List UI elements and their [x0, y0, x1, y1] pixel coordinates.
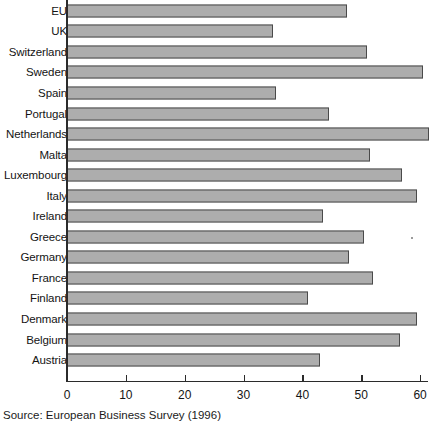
category-label: Spain	[38, 87, 67, 99]
category-label: Italy	[46, 190, 67, 202]
bar-track	[67, 292, 308, 305]
bar	[67, 45, 367, 58]
bar-track	[67, 169, 402, 182]
bar	[67, 210, 323, 223]
x-axis-tick-label: 40	[296, 388, 309, 402]
x-axis-tick	[361, 375, 362, 382]
bar	[67, 4, 347, 17]
category-label: Finland	[30, 292, 67, 304]
bar-track	[67, 251, 349, 264]
x-axis-tick-label: 50	[355, 388, 368, 402]
bar-track	[67, 66, 423, 79]
category-label: EU	[51, 5, 67, 17]
y-axis-line	[66, 0, 68, 382]
bar-track	[67, 313, 417, 326]
source-caption: Source: European Business Survey (1996)	[3, 409, 221, 421]
x-axis-tick-label: 60	[413, 388, 426, 402]
category-label: Portugal	[25, 108, 67, 120]
bar	[67, 313, 417, 326]
category-label: Austria	[32, 354, 67, 366]
bar	[67, 230, 364, 243]
bar	[67, 354, 320, 367]
bar	[67, 292, 308, 305]
category-label: Ireland	[33, 210, 67, 222]
bar-track	[67, 107, 329, 120]
category-label: Netherlands	[6, 128, 67, 140]
bar-track	[67, 189, 417, 202]
category-label: Denmark	[21, 313, 67, 325]
bar	[67, 169, 402, 182]
x-axis-tick	[420, 375, 421, 382]
stray-mark	[411, 237, 413, 239]
category-label: France	[32, 272, 67, 284]
bar-track	[67, 210, 323, 223]
x-axis-tick	[185, 375, 186, 382]
category-label: Germany	[20, 251, 67, 263]
x-axis-tick	[67, 375, 68, 382]
bar	[67, 128, 429, 141]
bar-track	[67, 25, 273, 38]
x-axis-tick-label: 20	[178, 388, 191, 402]
x-axis-tick	[244, 375, 245, 382]
bar-track	[67, 333, 400, 346]
bar-track	[67, 148, 370, 161]
bar	[67, 148, 370, 161]
bar-track	[67, 271, 373, 284]
x-axis-tick	[302, 375, 303, 382]
bar	[67, 25, 273, 38]
category-label: UK	[51, 25, 67, 37]
x-axis-tick	[126, 375, 127, 382]
bar	[67, 86, 276, 99]
bar-track	[67, 128, 429, 141]
x-axis-tick-label: 0	[64, 388, 71, 402]
bar	[67, 271, 373, 284]
category-label: Greece	[30, 231, 67, 243]
bar	[67, 189, 417, 202]
bar	[67, 107, 329, 120]
bar	[67, 333, 400, 346]
bar-track	[67, 86, 276, 99]
x-axis-tick-label: 10	[119, 388, 132, 402]
category-label: Belgium	[26, 334, 67, 346]
x-axis-line	[66, 381, 428, 382]
bar-track	[67, 354, 320, 367]
bar	[67, 251, 349, 264]
bar-track	[67, 230, 364, 243]
category-label: Malta	[39, 149, 67, 161]
x-axis-tick-label: 30	[237, 388, 250, 402]
bar	[67, 66, 423, 79]
category-label: Sweden	[26, 66, 67, 78]
category-label: Luxembourg	[4, 169, 67, 181]
category-label: Switzerland	[9, 46, 67, 58]
bar-track	[67, 45, 367, 58]
bar-track	[67, 4, 347, 17]
